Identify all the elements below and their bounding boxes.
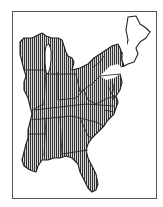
range-map xyxy=(0,0,163,207)
map-svg xyxy=(0,0,163,207)
